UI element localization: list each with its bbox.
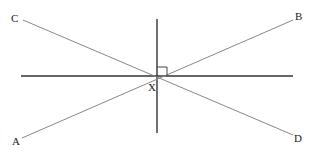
diagram-canvas: C B A D X: [0, 0, 314, 154]
label-C: C: [11, 12, 18, 24]
label-B: B: [295, 10, 302, 22]
label-X: X: [148, 81, 156, 93]
right-angle-marker: [157, 67, 167, 76]
label-A: A: [12, 135, 20, 147]
label-D: D: [294, 132, 302, 144]
